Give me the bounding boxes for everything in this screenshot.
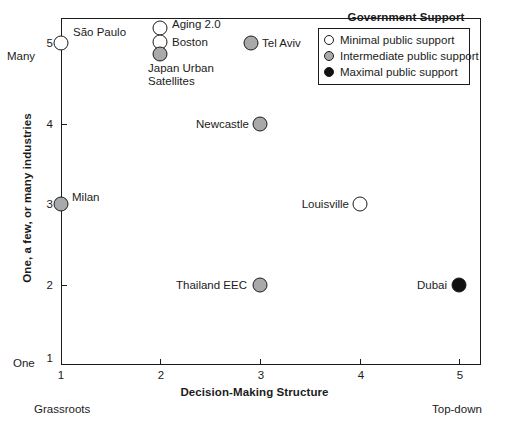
data-point-label-sao-paulo: São Paulo (73, 26, 126, 39)
data-point-label-japan-urban-satellites: Japan Urban Satellites (148, 62, 214, 87)
x-tick-label-1: 1 (58, 369, 64, 381)
legend-item-intermediate[interactable]: Intermediate public support (324, 48, 464, 64)
data-point-japan-urban-satellites[interactable] (153, 47, 168, 62)
y-tick-label-5: 5 (33, 37, 53, 49)
x-axis-high-anchor: Top-down (432, 403, 482, 415)
data-point-milan[interactable] (54, 197, 69, 212)
y-tick-4 (61, 124, 67, 125)
y-axis-high-anchor: Many (7, 50, 35, 62)
data-point-label-dubai: Dubai (417, 279, 447, 292)
data-point-label-milan: Milan (72, 191, 99, 204)
legend-label-maximal: Maximal public support (340, 66, 458, 78)
legend-label-intermediate: Intermediate public support (340, 50, 479, 62)
data-point-thailand-eec[interactable] (253, 278, 268, 293)
legend-label-minimal: Minimal public support (340, 34, 454, 46)
x-tick-label-4: 4 (358, 369, 364, 381)
x-tick-4 (360, 359, 361, 365)
data-point-label-louisville: Louisville (302, 198, 349, 211)
y-tick-2 (61, 285, 67, 286)
data-point-label-newcastle: Newcastle (196, 118, 249, 131)
x-tick-3 (260, 359, 261, 365)
x-tick-label-2: 2 (158, 369, 164, 381)
x-tick-5 (459, 359, 460, 365)
data-point-label-boston: Boston (172, 36, 208, 49)
data-point-label-thailand-eec: Thailand EEC (176, 279, 247, 292)
x-axis-title: Decision-Making Structure (0, 386, 509, 398)
data-point-newcastle[interactable] (253, 117, 268, 132)
data-point-label-tel-aviv: Tel Aviv (262, 37, 301, 50)
legend-marker-minimal-icon (324, 35, 334, 45)
x-tick-2 (160, 359, 161, 365)
data-point-aging-2-0[interactable] (153, 21, 168, 36)
data-point-sao-paulo[interactable] (54, 36, 69, 51)
legend-title: Government Support (331, 11, 481, 23)
y-tick-label-2: 2 (33, 279, 53, 291)
legend-marker-intermediate-icon (324, 51, 334, 61)
x-tick-label-3: 3 (258, 369, 264, 381)
data-point-louisville[interactable] (353, 197, 368, 212)
data-point-dubai[interactable] (452, 278, 467, 293)
x-tick-label-5: 5 (457, 369, 463, 381)
y-tick-label-1: 1 (33, 352, 53, 364)
x-axis-low-anchor: Grassroots (34, 403, 90, 415)
y-axis-low-anchor: One (13, 357, 35, 369)
y-tick-label-4: 4 (33, 118, 53, 130)
legend: Minimal public support Intermediate publ… (318, 28, 470, 85)
legend-item-minimal[interactable]: Minimal public support (324, 32, 464, 48)
scatter-chart: 1 2 3 4 5 5 4 3 2 1 Decision-Making Stru… (0, 0, 509, 428)
y-axis-title: One, a few, or many industries (21, 88, 33, 308)
data-point-tel-aviv[interactable] (244, 36, 259, 51)
legend-marker-maximal-icon (324, 67, 334, 77)
data-point-label-aging-2-0: Aging 2.0 (172, 18, 221, 31)
legend-item-maximal[interactable]: Maximal public support (324, 64, 464, 80)
x-tick-1 (61, 359, 62, 365)
y-tick-label-3: 3 (33, 198, 53, 210)
